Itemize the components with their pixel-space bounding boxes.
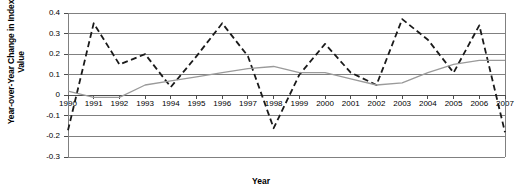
grid-lines [68,13,505,157]
y-tick-marks [64,13,68,157]
series-line-dashed-series [68,19,505,132]
x-tick-marks [68,95,505,99]
chart-container: Year-over-Year Change in Index Value Yea… [0,0,522,192]
series-paths [68,19,505,132]
series-line-solid-series [68,60,505,97]
plot-area [0,0,522,192]
axis-lines [68,13,505,157]
